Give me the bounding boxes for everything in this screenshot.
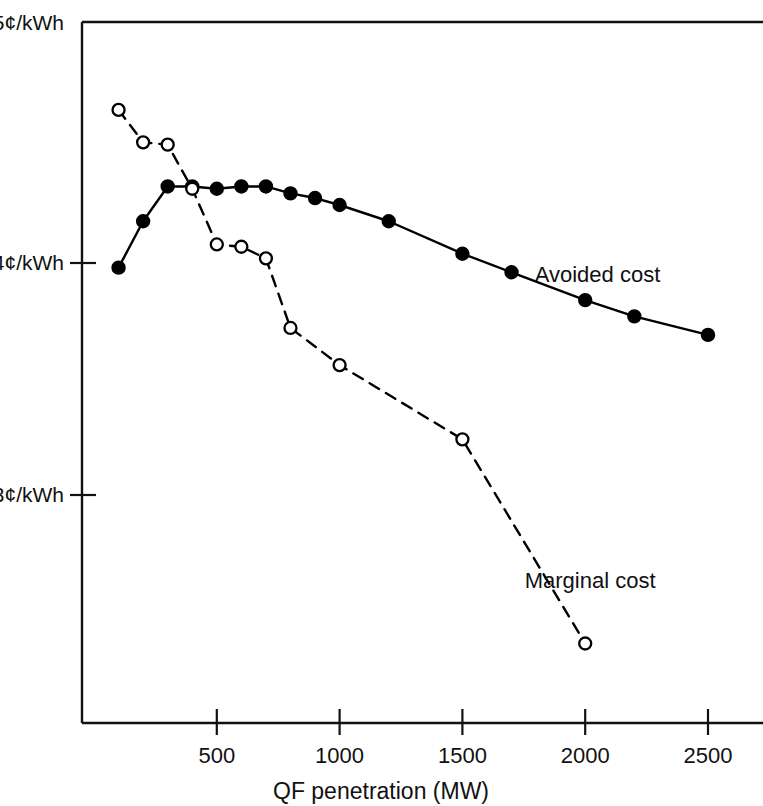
data-point-filled-circle <box>702 329 714 341</box>
data-point-open-circle <box>113 104 125 116</box>
x-axis-tick-labels: 5001000150020002500 <box>198 743 732 768</box>
y-axis-tick-labels: 3¢/kWh4¢/kWh5¢/kWh <box>0 11 64 506</box>
data-point-filled-circle <box>383 215 395 227</box>
x-axis-tick-label: 1500 <box>438 743 487 768</box>
data-point-filled-circle <box>161 180 173 192</box>
data-point-filled-circle <box>456 248 468 260</box>
y-axis-tick-label: 4¢/kWh <box>0 251 64 274</box>
data-point-filled-circle <box>579 294 591 306</box>
data-point-filled-circle <box>137 215 149 227</box>
data-point-filled-circle <box>628 310 640 322</box>
data-point-filled-circle <box>260 180 272 192</box>
data-point-filled-circle <box>333 199 345 211</box>
data-point-filled-circle <box>505 266 517 278</box>
series-annotation-label: Marginal cost <box>525 568 656 593</box>
data-point-open-circle <box>186 183 198 195</box>
data-point-open-circle <box>456 433 468 445</box>
data-point-open-circle <box>334 359 346 371</box>
data-point-open-circle <box>211 238 223 250</box>
line-chart: 3¢/kWh4¢/kWh5¢/kWh 5001000150020002500 A… <box>0 0 763 806</box>
x-axis-tick-label: 1000 <box>315 743 364 768</box>
series-annotation-label: Avoided cost <box>535 262 661 287</box>
x-axis-title: QF penetration (MW) <box>273 778 489 804</box>
x-axis-tick-label: 500 <box>198 743 235 768</box>
x-axis-tick-label: 2000 <box>561 743 610 768</box>
data-point-open-circle <box>579 637 591 649</box>
axis-lines <box>82 22 763 723</box>
data-point-open-circle <box>235 241 247 253</box>
chart-axes <box>70 22 763 735</box>
y-axis-tick-label: 3¢/kWh <box>0 483 64 506</box>
series-annotations: Avoided costMarginal cost <box>525 262 661 593</box>
chart-figure: 3¢/kWh4¢/kWh5¢/kWh 5001000150020002500 A… <box>0 0 763 806</box>
data-point-filled-circle <box>309 192 321 204</box>
data-point-filled-circle <box>211 183 223 195</box>
data-point-filled-circle <box>284 187 296 199</box>
y-axis-tick-label: 5¢/kWh <box>0 11 64 34</box>
data-point-open-circle <box>260 252 272 264</box>
data-point-open-circle <box>284 322 296 334</box>
data-point-filled-circle <box>112 261 124 273</box>
data-point-filled-circle <box>235 180 247 192</box>
data-point-open-circle <box>162 139 174 151</box>
series-lines <box>119 110 708 644</box>
data-point-open-circle <box>137 136 149 148</box>
x-axis-tick-label: 2500 <box>684 743 733 768</box>
